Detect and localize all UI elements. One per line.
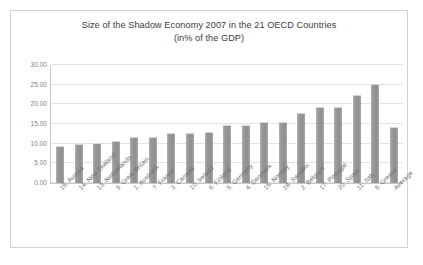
y-axis-tick-label: 0.00 [34, 179, 47, 186]
x-axis-label-slot: 10. Ireland [180, 185, 199, 247]
x-axis-label-slot: Average [384, 185, 403, 247]
bar[interactable] [371, 84, 379, 183]
chart-figure: Size of the Shadow Economy 2007 in the 2… [10, 10, 408, 248]
x-axis-label-slot: 1. Australia [124, 185, 143, 247]
x-axis-label-slot: 15. Norway [254, 185, 273, 247]
y-axis-tick-label: 5.00 [34, 159, 47, 166]
bar-slot [162, 65, 181, 183]
chart-title: Size of the Shadow Economy 2007 in the 2… [11, 19, 407, 32]
y-axis-tick-label: 10.00 [31, 139, 48, 146]
x-axis-label-slot: 14. New Zealand [69, 185, 88, 247]
x-axis-label-slot: 17. Portugal [309, 185, 328, 247]
x-axis-label-slot: 16. Austria [50, 185, 69, 247]
x-axis-label-slot: 9. Great Britain [106, 185, 125, 247]
bar-slot [348, 65, 367, 183]
bar[interactable] [56, 146, 64, 183]
x-axis-label-slot: 18. Sweden [272, 185, 291, 247]
chart-title-block: Size of the Shadow Economy 2007 in the 2… [11, 19, 407, 44]
y-axis-tick-label: 30.00 [31, 61, 48, 68]
x-axis-label-slot: 13. Netherlands [87, 185, 106, 247]
y-axis-tick-label: 25.00 [31, 80, 48, 87]
x-axis-label-slot: 2. Belgium [291, 185, 310, 247]
x-axis-label-slot: 3. Canada [161, 185, 180, 247]
bar-slot [366, 65, 385, 183]
x-axis-label-slot: 5. Germany [217, 185, 236, 247]
y-axis-tick-label: 15.00 [31, 120, 48, 127]
bar-slot [51, 65, 70, 183]
x-axis-label-slot: 11. Italy [347, 185, 366, 247]
x-axis-label-slot: 7. France [143, 185, 162, 247]
x-axis-labels: 16. Austria14. New Zealand13. Netherland… [50, 185, 402, 247]
x-axis-label-slot: 20. Spain [328, 185, 347, 247]
chart-subtitle: (in% of the GDP) [11, 32, 407, 45]
y-axis-tick-label: 20.00 [31, 100, 48, 107]
x-axis-label-slot: 4. Denmark [235, 185, 254, 247]
x-axis-label-slot: 6. Finland [198, 185, 217, 247]
x-axis-label-slot: 8. Greece [365, 185, 384, 247]
